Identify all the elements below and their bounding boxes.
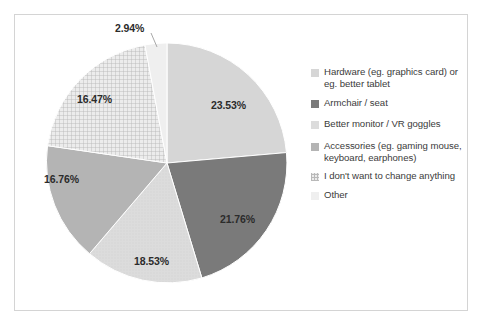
legend-label-better-monitor: Better monitor / VR goggles xyxy=(324,118,441,130)
legend-swatch-icon-armchair xyxy=(311,100,319,108)
legend-swatch-icon-other xyxy=(311,192,319,200)
pie-label-better-monitor: 18.53% xyxy=(134,255,169,267)
legend-label-hardware: Hardware (eg. graphics card) or eg. bett… xyxy=(324,66,463,91)
legend-label-other: Other xyxy=(324,189,348,201)
chart-frame: 23.53% 21.76% 18.53% 16.76% 16.47% 2.94%… xyxy=(14,14,468,311)
chart-legend: Hardware (eg. graphics card) or eg. bett… xyxy=(311,66,463,207)
legend-label-no-change: I don't want to change anything xyxy=(324,170,455,182)
legend-label-armchair: Armchair / seat xyxy=(324,97,388,109)
legend-item-hardware[interactable]: Hardware (eg. graphics card) or eg. bett… xyxy=(311,66,463,91)
pie-label-no-change: 16.47% xyxy=(77,93,112,105)
pie-label-armchair: 21.76% xyxy=(220,213,255,225)
pie-chart-plot-area: 23.53% 21.76% 18.53% 16.76% 16.47% 2.94%… xyxy=(15,15,467,310)
legend-item-armchair[interactable]: Armchair / seat xyxy=(311,97,463,109)
legend-swatch-icon-no-change xyxy=(311,173,319,181)
legend-label-accessories: Accessories (eg. gaming mouse, keyboard,… xyxy=(324,140,463,165)
legend-swatch-icon-hardware xyxy=(311,69,319,77)
legend-item-better-monitor[interactable]: Better monitor / VR goggles xyxy=(311,118,463,130)
legend-swatch-icon-better-monitor xyxy=(311,121,319,129)
legend-item-other[interactable]: Other xyxy=(311,189,463,201)
legend-item-no-change[interactable]: I don't want to change anything xyxy=(311,170,463,182)
legend-swatch-icon-accessories xyxy=(311,143,319,151)
pie-label-other: 2.94% xyxy=(115,22,144,34)
pie-label-hardware: 23.53% xyxy=(211,99,246,111)
legend-item-accessories[interactable]: Accessories (eg. gaming mouse, keyboard,… xyxy=(311,140,463,165)
pie-label-accessories: 16.76% xyxy=(44,173,79,185)
